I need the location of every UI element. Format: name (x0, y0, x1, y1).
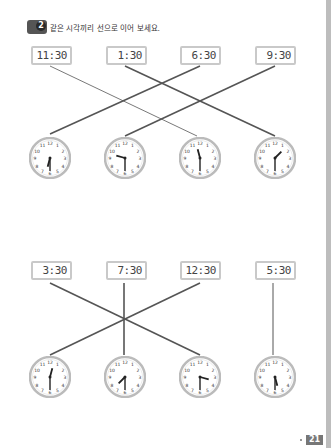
svg-text:6: 6 (124, 171, 127, 176)
analog-clock: 123456789101112 (179, 137, 221, 179)
svg-text:7: 7 (116, 388, 119, 393)
digital-clock: 7:30 (106, 261, 147, 280)
svg-text:3: 3 (139, 375, 142, 380)
svg-text:1: 1 (206, 362, 209, 367)
svg-text:7: 7 (191, 388, 194, 393)
svg-text:1: 1 (281, 362, 284, 367)
svg-text:1: 1 (131, 143, 134, 148)
analog-clock: 123456789101112 (29, 356, 71, 398)
svg-text:4: 4 (62, 383, 65, 388)
svg-text:9: 9 (109, 156, 112, 161)
svg-text:6: 6 (49, 171, 52, 176)
analog-clock: 123456789101112 (29, 137, 71, 179)
svg-text:2: 2 (137, 149, 140, 154)
svg-text:3: 3 (289, 375, 292, 380)
svg-text:11: 11 (190, 362, 196, 367)
svg-text:5: 5 (206, 169, 209, 174)
svg-text:11: 11 (265, 143, 271, 148)
svg-text:3: 3 (139, 156, 142, 161)
svg-text:8: 8 (111, 164, 114, 169)
svg-text:2: 2 (137, 368, 140, 373)
svg-text:8: 8 (186, 164, 189, 169)
svg-text:1: 1 (56, 143, 59, 148)
svg-text:12: 12 (122, 141, 128, 146)
svg-text:1: 1 (281, 143, 284, 148)
digital-clock: 3:30 (31, 261, 72, 280)
svg-text:6: 6 (49, 390, 52, 395)
page-number: 21 (306, 435, 323, 445)
svg-text:9: 9 (34, 375, 37, 380)
svg-text:10: 10 (259, 368, 265, 373)
svg-text:10: 10 (34, 368, 40, 373)
svg-text:1: 1 (206, 143, 209, 148)
svg-text:4: 4 (212, 164, 215, 169)
svg-text:2: 2 (212, 368, 215, 373)
svg-text:2: 2 (287, 368, 290, 373)
svg-text:5: 5 (281, 169, 284, 174)
svg-text:9: 9 (184, 156, 187, 161)
svg-text:2: 2 (287, 149, 290, 154)
svg-text:6: 6 (199, 171, 202, 176)
svg-text:5: 5 (131, 169, 134, 174)
svg-text:11: 11 (40, 362, 46, 367)
svg-text:4: 4 (137, 383, 140, 388)
svg-text:9: 9 (259, 375, 262, 380)
svg-text:11: 11 (115, 362, 121, 367)
svg-text:7: 7 (191, 169, 194, 174)
svg-text:5: 5 (206, 388, 209, 393)
analog-clock: 123456789101112 (254, 137, 296, 179)
svg-text:12: 12 (197, 141, 203, 146)
svg-text:2: 2 (212, 149, 215, 154)
svg-text:4: 4 (62, 164, 65, 169)
svg-text:11: 11 (115, 143, 121, 148)
svg-text:4: 4 (287, 164, 290, 169)
svg-text:6: 6 (124, 390, 127, 395)
svg-text:4: 4 (212, 383, 215, 388)
analog-clock: 123456789101112 (104, 137, 146, 179)
svg-text:5: 5 (56, 169, 59, 174)
svg-text:8: 8 (261, 164, 264, 169)
svg-text:3: 3 (64, 156, 67, 161)
svg-text:9: 9 (184, 375, 187, 380)
digital-clock: 9:30 (255, 46, 296, 65)
svg-text:6: 6 (199, 390, 202, 395)
svg-text:1: 1 (131, 362, 134, 367)
svg-text:10: 10 (34, 149, 40, 154)
svg-text:3: 3 (214, 375, 217, 380)
svg-text:7: 7 (116, 169, 119, 174)
svg-text:8: 8 (36, 164, 39, 169)
digital-clock: 5:30 (255, 261, 296, 280)
svg-text:5: 5 (131, 388, 134, 393)
svg-text:5: 5 (281, 388, 284, 393)
svg-text:8: 8 (111, 383, 114, 388)
svg-text:10: 10 (259, 149, 265, 154)
svg-text:4: 4 (137, 164, 140, 169)
svg-text:10: 10 (109, 149, 115, 154)
analog-clock: 123456789101112 (254, 356, 296, 398)
digital-clock: 11:30 (31, 46, 72, 65)
svg-text:2: 2 (62, 149, 65, 154)
svg-text:9: 9 (259, 156, 262, 161)
svg-text:2: 2 (62, 368, 65, 373)
svg-text:7: 7 (266, 169, 269, 174)
page-dot (300, 439, 302, 441)
svg-text:6: 6 (274, 390, 277, 395)
svg-text:8: 8 (186, 383, 189, 388)
svg-text:12: 12 (197, 360, 203, 365)
svg-text:9: 9 (109, 375, 112, 380)
svg-text:10: 10 (109, 368, 115, 373)
svg-text:4: 4 (287, 383, 290, 388)
svg-text:12: 12 (47, 141, 53, 146)
svg-text:12: 12 (47, 360, 53, 365)
svg-text:10: 10 (184, 149, 190, 154)
svg-text:5: 5 (56, 388, 59, 393)
svg-text:3: 3 (64, 375, 67, 380)
svg-text:7: 7 (41, 169, 44, 174)
svg-text:8: 8 (36, 383, 39, 388)
svg-text:7: 7 (41, 388, 44, 393)
svg-text:8: 8 (261, 383, 264, 388)
svg-text:6: 6 (274, 171, 277, 176)
svg-text:11: 11 (40, 143, 46, 148)
digital-clock: 6:30 (180, 46, 221, 65)
svg-text:3: 3 (214, 156, 217, 161)
